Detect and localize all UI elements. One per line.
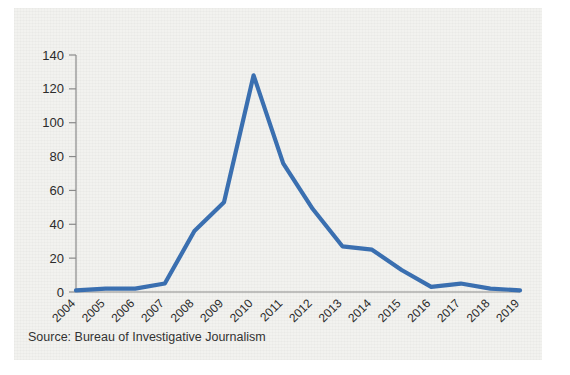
data-series-line bbox=[76, 75, 520, 290]
y-axis-tick-label: 60 bbox=[50, 183, 64, 198]
x-axis-tick-label: 2017 bbox=[434, 296, 463, 325]
y-axis-tick-label: 120 bbox=[42, 81, 64, 96]
x-axis-tick-label: 2006 bbox=[109, 296, 138, 325]
x-axis-tick-label: 2005 bbox=[79, 296, 108, 325]
line-chart: 020406080100120140 200420052006200720082… bbox=[14, 8, 542, 360]
y-axis-tick-label: 40 bbox=[50, 217, 64, 232]
y-axis-tick-label: 0 bbox=[57, 285, 64, 300]
x-axis-tick-label: 2007 bbox=[138, 296, 167, 325]
x-axis-tick-label: 2010 bbox=[227, 296, 256, 325]
x-axis-tick-labels: 2004200520062007200820092010201120122013… bbox=[49, 296, 522, 325]
x-axis-tick-label: 2004 bbox=[49, 296, 78, 325]
y-axis-tick-label: 140 bbox=[42, 48, 64, 63]
y-axis-ticks bbox=[69, 55, 76, 292]
x-axis-tick-label: 2015 bbox=[375, 296, 404, 325]
x-axis-tick-label: 2018 bbox=[464, 296, 493, 325]
source-note: Source: Bureau of Investigative Journali… bbox=[28, 330, 266, 344]
x-axis-tick-label: 2009 bbox=[197, 296, 226, 325]
x-axis-tick-label: 2008 bbox=[168, 296, 197, 325]
x-axis-tick-label: 2016 bbox=[405, 296, 434, 325]
y-axis-tick-labels: 020406080100120140 bbox=[42, 48, 64, 300]
x-axis-tick-label: 2012 bbox=[286, 296, 315, 325]
y-axis-tick-label: 80 bbox=[50, 149, 64, 164]
y-axis-tick-label: 100 bbox=[42, 115, 64, 130]
chart-card: 020406080100120140 200420052006200720082… bbox=[14, 8, 542, 360]
x-axis-tick-label: 2011 bbox=[257, 296, 285, 324]
x-axis-tick-label: 2013 bbox=[316, 296, 345, 325]
y-axis-tick-label: 20 bbox=[50, 251, 64, 266]
x-axis-tick-label: 2014 bbox=[345, 296, 374, 325]
x-axis-tick-label: 2019 bbox=[493, 296, 522, 325]
